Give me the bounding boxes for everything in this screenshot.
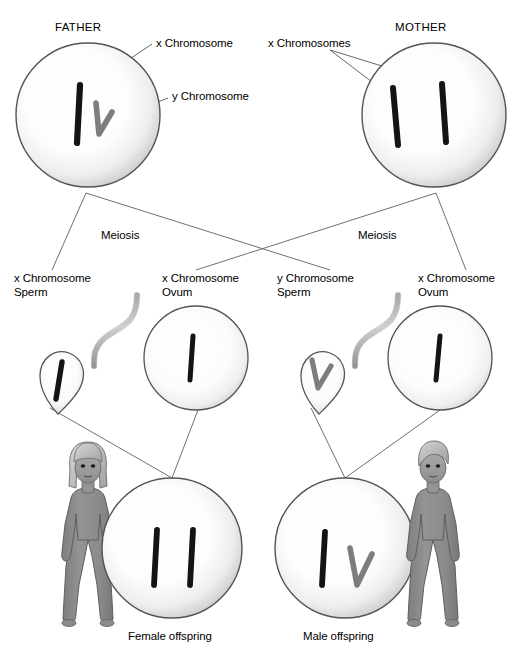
line-x-sperm-to-female-offspring <box>50 408 172 478</box>
x-ovum-right-label-line2: Ovum <box>418 286 448 300</box>
female-offspring-x-chromosome-1 <box>154 530 157 585</box>
female-offspring-cell <box>102 478 242 618</box>
x-ovum-left-membrane <box>144 306 248 410</box>
boy-right-eye <box>436 464 441 467</box>
mother-x-chromosomes-annotation: x Chromosomes <box>268 37 350 51</box>
fertilisation-connector-lines <box>50 408 440 478</box>
line-x-ovum-to-female-offspring <box>172 410 198 478</box>
father-y-chromosome-annotation: y Chromosome <box>172 90 249 104</box>
y-sperm-label-line1: y Chromosome <box>277 272 354 286</box>
mother-cell-membrane <box>362 43 506 187</box>
father-x-chromosome <box>77 85 80 143</box>
diagram-canvas: FATHER MOTHER x Chromosome y Chromosome … <box>0 0 522 662</box>
female-offspring-x-chromosome-2 <box>190 530 193 585</box>
girl-left-foot <box>62 620 76 627</box>
line-mother-to-x-ovum-right <box>436 193 466 270</box>
mother-cell <box>362 43 506 187</box>
girl-right-eye <box>91 464 96 467</box>
line-mother-to-x-ovum-left <box>196 193 436 270</box>
line-father-to-x-sperm <box>52 193 86 270</box>
father-label: FATHER <box>55 21 101 35</box>
girl-left-eye <box>81 464 86 467</box>
boy-figure <box>407 441 460 627</box>
boy-left-eye <box>426 464 431 467</box>
x-ovum-left-x-chromosome <box>190 336 193 380</box>
female-offspring-membrane <box>102 478 242 618</box>
x-ovum-left-label-line1: x Chromosome <box>162 272 239 286</box>
x-ovum-left-gamete <box>144 306 248 410</box>
female-offspring-label: Female offspring <box>128 630 212 644</box>
x-sperm-gamete <box>40 295 137 414</box>
x-sperm-tail-outline <box>94 295 137 366</box>
father-meiosis-label: Meiosis <box>101 229 139 243</box>
boy-left-foot <box>407 620 421 627</box>
male-offspring-cell <box>275 478 415 618</box>
inheritance-diagram-svg <box>0 0 522 662</box>
mother-x-chromosome-2 <box>442 84 446 142</box>
male-offspring-x-chromosome <box>322 532 325 585</box>
mother-label: MOTHER <box>395 21 447 35</box>
father-cell-membrane <box>16 43 160 187</box>
x-sperm-label-line1: x Chromosome <box>14 272 91 286</box>
line-y-sperm-to-male-offspring <box>311 408 345 478</box>
male-offspring-label: Male offspring <box>303 630 374 644</box>
girl-right-foot <box>100 620 114 627</box>
x-sperm-label-line2: Sperm <box>14 286 47 300</box>
boy-right-foot <box>445 620 459 627</box>
y-sperm-gamete <box>301 295 398 414</box>
male-offspring-membrane <box>275 478 415 618</box>
father-cell <box>16 43 160 187</box>
x-ovum-right-gamete <box>388 306 492 410</box>
x-ovum-left-label-line2: Ovum <box>162 286 192 300</box>
y-sperm-label-line2: Sperm <box>277 286 310 300</box>
x-ovum-right-label-line1: x Chromosome <box>418 272 495 286</box>
mother-meiosis-label: Meiosis <box>358 229 396 243</box>
father-x-chromosome-annotation: x Chromosome <box>156 37 233 51</box>
boy-torso <box>407 488 460 561</box>
